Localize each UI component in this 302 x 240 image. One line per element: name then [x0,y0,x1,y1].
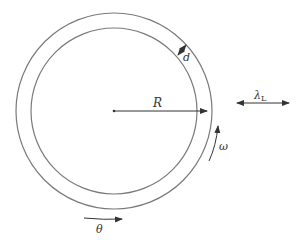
angle-label: θ [96,223,103,236]
thickness-label: d [183,51,190,64]
angular-velocity-label: ω [219,140,228,153]
radius-label: R [152,96,162,110]
ring-diagram: R d ω θ λL [0,0,302,240]
wavelength-label: λL [253,89,267,103]
angle-arrow [84,218,122,219]
